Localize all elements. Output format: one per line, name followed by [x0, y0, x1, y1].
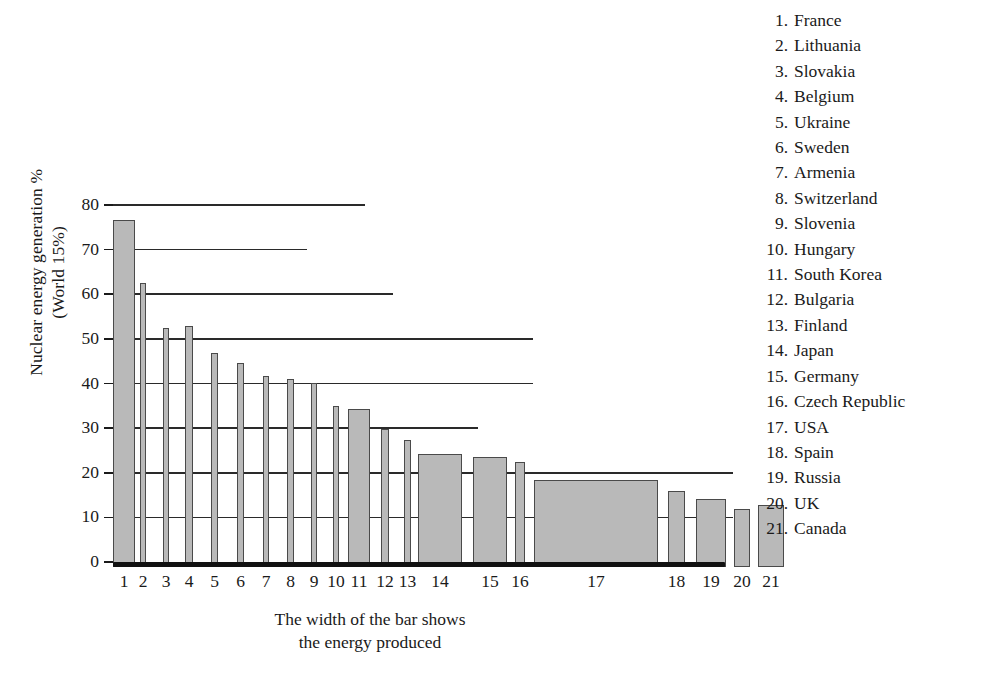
legend-item-number: 21.	[762, 516, 788, 541]
legend-item-label: Sweden	[794, 135, 849, 160]
x-tick-label-12: 12	[376, 573, 394, 591]
y-tick-label-40: 40	[65, 375, 99, 393]
legend-item-number: 8.	[762, 186, 788, 211]
legend-item-slovenia: 9.Slovenia	[762, 211, 977, 236]
legend-item-label: Ukraine	[794, 110, 850, 135]
y-tick-label-60: 60	[65, 286, 99, 304]
x-tick-label-19: 19	[702, 573, 720, 591]
legend-item-number: 15.	[762, 364, 788, 389]
gridline-50	[113, 338, 533, 340]
y-tick-mark-40	[104, 383, 113, 385]
gridline-80	[113, 204, 365, 206]
legend-item-belgium: 4.Belgium	[762, 84, 977, 109]
legend-item-label: Finland	[794, 313, 847, 338]
x-tick-label-7: 7	[262, 573, 271, 591]
legend-item-label: South Korea	[794, 262, 882, 287]
legend-item-ukraine: 5.Ukraine	[762, 110, 977, 135]
y-tick-label-50: 50	[65, 330, 99, 348]
y-tick-mark-0	[104, 561, 113, 563]
bar-10-hungary	[333, 406, 339, 567]
legend: 1.France2.Lithuania3.Slovakia4.Belgium5.…	[762, 8, 977, 542]
x-axis-caption: The width of the bar shows the energy pr…	[150, 608, 590, 654]
legend-item-label: Armenia	[794, 160, 855, 185]
legend-item-label: Germany	[794, 364, 859, 389]
legend-item-spain: 18.Spain	[762, 440, 977, 465]
gridline-60	[113, 293, 393, 295]
x-tick-label-11: 11	[351, 573, 368, 591]
legend-item-label: Bulgaria	[794, 287, 854, 312]
x-tick-label-8: 8	[286, 573, 295, 591]
legend-item-label: France	[794, 8, 842, 33]
bar-2-lithuania	[140, 283, 146, 567]
legend-item-label: Belgium	[794, 84, 854, 109]
y-tick-mark-80	[104, 204, 113, 206]
legend-item-number: 16.	[762, 389, 788, 414]
gridline-70	[113, 249, 307, 251]
legend-item-south-korea: 11.South Korea	[762, 262, 977, 287]
legend-item-bulgaria: 12.Bulgaria	[762, 287, 977, 312]
bar-17-usa	[534, 480, 658, 567]
legend-item-lithuania: 2.Lithuania	[762, 33, 977, 58]
bar-20-uk	[734, 509, 750, 567]
x-tick-label-17: 17	[587, 573, 605, 591]
legend-item-finland: 13.Finland	[762, 313, 977, 338]
legend-item-number: 11.	[762, 262, 788, 287]
legend-item-canada: 21.Canada	[762, 516, 977, 541]
y-tick-label-70: 70	[65, 241, 99, 259]
y-tick-mark-70	[104, 249, 113, 251]
legend-item-number: 18.	[762, 440, 788, 465]
bar-13-finland	[404, 440, 411, 567]
legend-item-label: Switzerland	[794, 186, 878, 211]
bar-19-russia	[696, 499, 726, 567]
legend-item-slovakia: 3.Slovakia	[762, 59, 977, 84]
legend-item-label: Lithuania	[794, 33, 861, 58]
legend-item-japan: 14.Japan	[762, 338, 977, 363]
plot-area: 01020304050607080 1234567891011121314151…	[113, 205, 733, 567]
bar-3-slovakia	[163, 328, 169, 567]
bar-15-germany	[473, 457, 507, 567]
y-tick-label-0: 0	[65, 553, 99, 571]
x-tick-label-2: 2	[139, 573, 148, 591]
x-tick-label-1: 1	[120, 573, 129, 591]
bar-4-belgium	[185, 326, 193, 567]
legend-item-number: 5.	[762, 110, 788, 135]
legend-item-switzerland: 8.Switzerland	[762, 186, 977, 211]
legend-item-number: 6.	[762, 135, 788, 160]
bar-6-sweden	[237, 363, 244, 567]
legend-item-number: 9.	[762, 211, 788, 236]
bar-1-france	[113, 220, 135, 567]
y-tick-mark-30	[104, 427, 113, 429]
bar-14-japan	[418, 454, 462, 567]
x-tick-label-21: 21	[762, 573, 780, 591]
legend-item-label: USA	[794, 415, 829, 440]
legend-item-sweden: 6.Sweden	[762, 135, 977, 160]
legend-item-label: Russia	[794, 465, 841, 490]
x-tick-label-6: 6	[236, 573, 245, 591]
bar-12-bulgaria	[381, 429, 389, 567]
legend-item-number: 1.	[762, 8, 788, 33]
x-tick-label-4: 4	[185, 573, 194, 591]
y-tick-mark-50	[104, 338, 113, 340]
x-axis-line	[113, 562, 725, 567]
y-tick-label-20: 20	[65, 464, 99, 482]
x-tick-label-14: 14	[431, 573, 449, 591]
x-tick-label-18: 18	[668, 573, 686, 591]
legend-item-number: 3.	[762, 59, 788, 84]
y-tick-mark-20	[104, 472, 113, 474]
legend-item-number: 10.	[762, 237, 788, 262]
bar-16-czech-republic	[515, 462, 525, 567]
x-tick-label-20: 20	[733, 573, 751, 591]
legend-item-label: Japan	[794, 338, 834, 363]
legend-item-armenia: 7.Armenia	[762, 160, 977, 185]
legend-item-label: Canada	[794, 516, 846, 541]
gridline-40	[113, 383, 533, 385]
legend-item-number: 2.	[762, 33, 788, 58]
legend-item-usa: 17.USA	[762, 415, 977, 440]
legend-item-germany: 15.Germany	[762, 364, 977, 389]
legend-item-number: 17.	[762, 415, 788, 440]
legend-item-label: UK	[794, 491, 819, 516]
y-tick-mark-10	[104, 517, 113, 519]
legend-item-label: Hungary	[794, 237, 855, 262]
legend-item-russia: 19.Russia	[762, 465, 977, 490]
x-tick-label-5: 5	[210, 573, 219, 591]
